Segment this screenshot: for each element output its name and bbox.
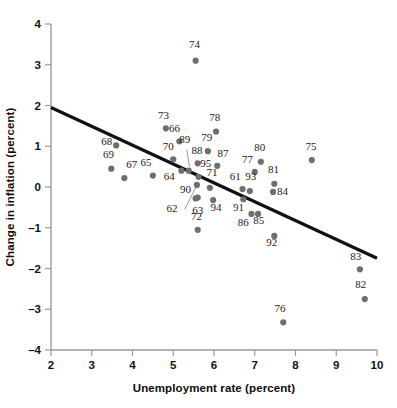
x-axis-tick-label: 7	[252, 359, 258, 371]
data-point	[193, 58, 199, 64]
x-axis-tick-label: 5	[170, 359, 177, 371]
point-labels-group: 6162636465666768697071727374757677787980…	[101, 38, 366, 313]
data-point-label: 78	[209, 111, 221, 123]
axes-group: 234567891043210–1–2–3–4	[28, 18, 383, 371]
chart-canvas: 234567891043210–1–2–3–4 6162636465666768…	[0, 0, 397, 408]
data-point-label: 92	[266, 236, 277, 248]
data-point	[194, 182, 200, 188]
data-point	[362, 296, 368, 302]
data-point-label: 95	[200, 157, 212, 169]
data-point	[270, 189, 276, 195]
y-axis-title: Change in inflation (percent)	[4, 108, 16, 267]
data-point-label: 72	[191, 210, 202, 222]
data-point-label: 81	[268, 163, 279, 175]
data-point-label: 76	[275, 302, 287, 314]
data-point	[247, 188, 253, 194]
data-point	[195, 227, 201, 233]
x-axis-tick-label: 9	[333, 359, 339, 371]
data-point	[195, 194, 201, 200]
data-point-label: 86	[238, 216, 250, 228]
data-point-label: 89	[179, 133, 191, 145]
data-point-label: 87	[217, 147, 229, 159]
data-point-label: 64	[164, 170, 176, 182]
data-point-label: 90	[180, 183, 192, 195]
x-axis-tick-label: 6	[211, 359, 217, 371]
data-point	[195, 174, 201, 180]
x-axis-tick-label: 4	[129, 359, 136, 371]
data-point-label: 83	[350, 250, 362, 262]
y-axis-tick-label: –4	[28, 344, 41, 356]
data-point	[186, 168, 192, 174]
data-point-label: 67	[126, 158, 138, 170]
data-point-label: 94	[211, 201, 223, 213]
x-axis-tick-label: 3	[89, 359, 95, 371]
data-point	[205, 148, 211, 154]
axis-titles-group: Unemployment rate (percent)Change in inf…	[4, 108, 295, 394]
x-axis-tick-label: 2	[48, 359, 54, 371]
data-point-label: 93	[245, 170, 257, 182]
data-point-label: 79	[201, 131, 213, 143]
data-point-label: 70	[163, 140, 175, 152]
data-point-label: 88	[191, 144, 203, 156]
y-axis-tick-label: 4	[35, 18, 42, 30]
data-point-label: 65	[140, 156, 152, 168]
data-point-label: 85	[253, 214, 265, 226]
data-point-label: 73	[158, 109, 170, 121]
data-point	[121, 175, 127, 181]
y-axis-tick-label: –1	[28, 222, 41, 234]
y-axis-tick-label: 1	[35, 140, 42, 152]
y-axis-tick-label: –2	[28, 263, 41, 275]
x-axis-tick-label: 10	[371, 359, 384, 371]
data-point	[309, 157, 315, 163]
x-axis-tick-label: 8	[292, 359, 299, 371]
data-point-label: 82	[355, 278, 366, 290]
y-axis-tick-label: –3	[28, 303, 41, 315]
data-point-label: 74	[189, 38, 201, 50]
y-axis-tick-label: 2	[35, 100, 41, 112]
data-point	[178, 168, 184, 174]
data-point	[113, 142, 119, 148]
data-point	[170, 156, 176, 162]
data-point	[213, 128, 219, 134]
data-point-label: 84	[277, 185, 289, 197]
label-leader-line	[187, 150, 190, 167]
data-point	[280, 319, 286, 325]
data-point-label: 91	[233, 201, 244, 213]
data-point-label: 61	[230, 170, 241, 182]
data-point-label: 77	[242, 153, 254, 165]
data-point	[150, 172, 156, 178]
data-points-group	[108, 58, 368, 326]
scatter-plot-figure: 234567891043210–1–2–3–4 6162636465666768…	[0, 0, 397, 408]
data-point-label: 75	[305, 140, 317, 152]
data-point-label: 68	[101, 135, 113, 147]
data-point	[108, 166, 114, 172]
data-point-label: 80	[254, 141, 266, 153]
data-point-label: 62	[167, 202, 178, 214]
data-point	[207, 185, 213, 191]
data-point	[239, 186, 245, 192]
x-axis-title: Unemployment rate (percent)	[133, 382, 296, 394]
data-point-label: 66	[169, 122, 181, 134]
y-axis-tick-label: 0	[35, 181, 41, 193]
data-point	[258, 159, 264, 165]
data-point	[357, 266, 363, 272]
y-axis-tick-label: 3	[35, 59, 41, 71]
data-point-label: 69	[103, 148, 115, 160]
